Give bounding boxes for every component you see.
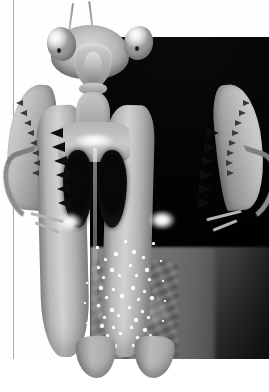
speckle-dot	[130, 326, 133, 329]
tibia-spine-right	[227, 170, 234, 176]
speckle-dot	[142, 256, 145, 259]
tibia-spine-left	[16, 100, 23, 106]
speckle-dot	[97, 266, 100, 269]
femur-spine-right	[198, 198, 211, 208]
mantis-subject	[0, 0, 269, 392]
femur-spine-left	[57, 184, 70, 194]
speckle-dot	[88, 262, 90, 264]
speckle-dot	[162, 280, 164, 282]
femur-spine-left	[58, 198, 71, 208]
speckle-dot	[124, 240, 127, 243]
tibia-spine-left	[24, 120, 31, 126]
speckle-dot	[129, 264, 132, 267]
speckle-dot	[84, 302, 86, 304]
speckle-dot	[112, 326, 115, 329]
speckle-dot	[162, 320, 164, 322]
speckle-dot	[104, 258, 107, 261]
speckle-dot	[100, 324, 104, 328]
speckle-dot	[114, 252, 118, 256]
tibia-spine-right	[235, 120, 242, 126]
speckle-dot	[102, 276, 105, 279]
speckle-dot	[160, 260, 162, 262]
tibia-spine-right	[229, 140, 236, 146]
tibia-spine-right	[243, 100, 250, 106]
femur-spine-right	[200, 170, 213, 180]
speckle-dot	[105, 296, 108, 299]
page-white-below-plate	[0, 359, 269, 392]
speckle-dot	[143, 328, 147, 332]
speckle-dot	[120, 294, 124, 298]
speckle-dot	[143, 290, 146, 293]
speckle-dot	[119, 332, 122, 335]
mid-seam-line	[93, 148, 97, 336]
tibia-spine-left	[33, 160, 40, 166]
pseudopupil-right	[135, 46, 139, 51]
speckle-dot	[103, 316, 106, 319]
speckle-dot	[150, 296, 154, 300]
speckle-dot	[118, 274, 121, 277]
speckle-dot	[147, 316, 150, 319]
femur-spine-left	[50, 128, 63, 138]
tibia-spine-right	[226, 160, 233, 166]
tibia-spine-left	[32, 150, 39, 156]
face-ridge	[84, 52, 102, 82]
tibia-spine-left	[32, 170, 39, 176]
speckle-dot	[152, 242, 155, 245]
femur-spine-left	[52, 142, 65, 152]
speckle-dot	[145, 268, 149, 272]
speckle-dot	[131, 286, 135, 290]
specular-highlight-right	[148, 210, 176, 230]
tibia-spine-left	[27, 130, 34, 136]
tibia-spine-left	[30, 140, 37, 146]
midleg-right-secondary	[212, 219, 237, 232]
speckle-dot	[110, 308, 114, 312]
pseudopupil-left	[57, 48, 61, 53]
page-canvas: Frontal close-up photograph of a praying…	[0, 0, 269, 392]
speckle-dot	[132, 250, 136, 254]
speckle-dot	[164, 300, 166, 302]
speckle-dot	[86, 322, 88, 324]
speckle-dot	[110, 268, 114, 272]
speckle-dot	[99, 286, 103, 290]
femur-spine-left	[56, 170, 69, 180]
speckle-dot	[134, 318, 138, 322]
speckle-dot	[117, 314, 120, 317]
speckle-dot	[141, 310, 144, 313]
tibia-spine-right	[227, 150, 234, 156]
speckle-dot	[128, 306, 131, 309]
speckle-dot	[137, 298, 140, 301]
speckle-dot	[86, 282, 88, 284]
tibia-spine-right	[232, 130, 239, 136]
speckle-dot	[97, 304, 100, 307]
femur-spine-right	[202, 156, 215, 166]
femur-spine-right	[206, 128, 219, 138]
speckle-dot	[112, 288, 115, 291]
femur-spine-left	[54, 156, 67, 166]
speckle-dot	[96, 246, 99, 249]
femur-spine-right	[204, 142, 217, 152]
coxa-specular-highlight	[73, 133, 115, 148]
speckle-dot	[148, 278, 151, 281]
speckle-dot	[135, 274, 138, 277]
tibia-spine-left	[20, 110, 27, 116]
femur-spine-right	[199, 184, 212, 194]
tibia-spine-right	[239, 110, 246, 116]
